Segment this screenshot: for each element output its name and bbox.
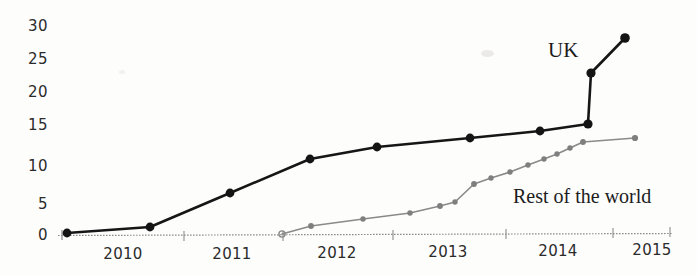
data-point-uk-1 [146,223,155,232]
data-point-row-12 [567,145,572,150]
data-point-uk-7 [583,119,592,128]
line-chart-figure: 30 25 20 15 10 5 0 [0,0,697,276]
data-point-uk-4 [373,143,382,152]
data-point-row-8 [507,169,512,174]
x-tick-label-2011: 2011 [212,247,251,262]
data-point-row-14 [632,135,638,141]
data-point-row-6 [471,181,477,187]
x-tick-label-2014: 2014 [538,244,577,259]
data-point-row-7 [488,175,493,180]
data-point-uk-2 [226,189,235,198]
x-axis-line [58,234,672,236]
data-point-row-11 [554,151,559,156]
data-point-row-13 [580,139,586,145]
data-point-uk-6 [536,127,545,136]
data-point-uk-5 [466,134,475,143]
data-point-uk-3 [306,155,315,164]
data-point-row-4 [437,203,443,209]
data-point-row-1 [308,223,314,229]
x-tick-label-2013: 2013 [428,245,467,260]
data-point-row-3 [407,210,412,215]
x-tick-label-2010: 2010 [103,247,142,262]
plot-area [0,0,697,276]
data-point-row-5 [452,199,457,204]
data-point-row-9 [525,162,530,167]
series-annotation-rest-of-the-world: Rest of the world [513,186,651,206]
data-point-uk-8 [586,68,595,77]
data-point-uk-9 [620,33,630,43]
data-point-row-2 [360,216,365,221]
data-point-row-10 [541,156,546,161]
series-annotation-uk: UK [548,40,578,61]
x-tick-label-2012: 2012 [317,246,356,261]
data-point-uk-0 [63,229,72,238]
x-tick-label-2015: 2015 [632,243,671,258]
